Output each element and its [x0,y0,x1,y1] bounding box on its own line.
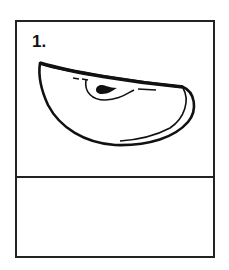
apple-slice-icon [0,0,229,270]
